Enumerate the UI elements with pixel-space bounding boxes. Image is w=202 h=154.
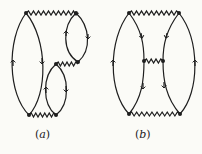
vertex-dot: [54, 113, 58, 117]
feynman-diagram-figure: [0, 0, 202, 154]
panel-label-b: (b): [135, 128, 151, 141]
vertex-dot: [178, 112, 182, 116]
vertices-b: [127, 11, 182, 116]
vertices-a: [24, 11, 80, 117]
fermion-line-left-outer: [113, 13, 129, 114]
panel-letter-b: b: [139, 128, 146, 141]
wavy-line-bottom: [129, 112, 180, 116]
fermion-line-left-inner: [129, 13, 144, 114]
wavy-line-top: [129, 11, 179, 15]
fermion-line-left-outer: [12, 13, 29, 115]
vertex-dot: [177, 11, 181, 15]
panel-letter-a: a: [39, 128, 46, 141]
wavy-line-middle: [144, 59, 163, 63]
vertex-dot: [27, 113, 31, 117]
vertex-dot: [76, 60, 80, 64]
fermion-line-right-inner: [163, 13, 180, 114]
wavy-line-middle: [56, 62, 78, 66]
vertex-dot: [142, 59, 146, 63]
diagram-b: [113, 11, 195, 116]
fermion-line-upper-right-left: [66, 13, 78, 62]
fermion-line-lower-left: [46, 64, 57, 115]
fermion-line-left-inner: [26, 13, 43, 115]
vertex-dot: [24, 11, 28, 15]
diagram-a: [12, 11, 88, 117]
vertex-dot: [127, 112, 131, 116]
vertex-dot: [127, 11, 131, 15]
vertex-dot: [74, 11, 78, 15]
wavy-line-bottom: [29, 113, 56, 117]
arrow-icon: [166, 33, 167, 38]
vertex-dot: [161, 59, 165, 63]
panel-label-a: (a): [35, 128, 50, 141]
fermion-line-lower-right: [56, 64, 67, 115]
fermion-line-upper-right-right: [76, 13, 88, 62]
wavy-line-top: [26, 11, 79, 15]
fermion-line-right-outer: [179, 13, 195, 114]
vertex-dot: [54, 62, 58, 66]
